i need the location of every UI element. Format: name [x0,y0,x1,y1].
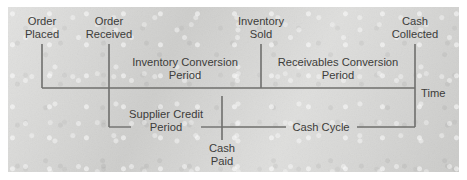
event-label-order-placed-line1: Order [28,15,57,27]
cash-cycle-figure: Order Placed Order Received Inventory So… [0,0,467,180]
period-label-inventory-conversion-line1: Inventory Conversion [132,56,238,68]
period-label-receivables-conversion: Receivables Conversion Period [278,56,399,81]
event-label-order-placed: Order Placed [25,15,59,40]
period-label-inventory-conversion: Inventory Conversion Period [132,56,238,81]
period-label-cash-cycle-line1: Cash Cycle [292,121,349,133]
event-label-order-received-line2: Received [86,28,133,40]
period-label-receivables-conversion-line2: Period [322,69,354,81]
period-label-receivables-conversion-line1: Receivables Conversion [278,56,399,68]
period-label-inventory-conversion-line2: Period [169,69,201,81]
event-label-order-received-line1: Order [95,15,124,27]
period-label-supplier-credit-line1: Supplier Credit [129,108,204,120]
period-label-cash-cycle: Cash Cycle [292,121,349,133]
event-label-cash-paid: Cash Paid [209,142,235,167]
event-label-order-placed-line2: Placed [25,28,59,40]
event-label-cash-paid-line1: Cash [209,142,235,154]
event-label-order-received: Order Received [86,15,133,40]
event-label-inventory-sold-line1: Inventory [238,15,284,27]
event-label-inventory-sold-line2: Sold [250,28,272,40]
event-label-inventory-sold: Inventory Sold [238,15,284,40]
period-label-supplier-credit: Supplier Credit Period [129,108,204,133]
time-axis-label: Time [421,87,445,99]
event-label-cash-collected-line2: Collected [392,28,439,40]
event-label-cash-collected-line1: Cash [402,15,428,27]
timeline-diagram: Order Placed Order Received Inventory So… [0,0,467,180]
event-label-cash-paid-line2: Paid [211,155,233,167]
event-label-cash-collected: Cash Collected [392,15,439,40]
period-label-supplier-credit-line2: Period [150,121,182,133]
